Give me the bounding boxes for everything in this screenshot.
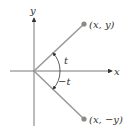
point-lower-label: (x, −y) [89, 114, 123, 125]
angle-label-lower: −t [58, 76, 71, 87]
y-axis-label: y [29, 5, 36, 16]
angle-arc-upper [53, 53, 60, 71]
point-lower [81, 116, 86, 121]
point-upper [81, 21, 86, 26]
angle-label-upper: t [64, 55, 69, 66]
point-upper-label: (x, y) [89, 19, 115, 30]
unit-angle-diagram: x y (x, y) (x, −y) t −t [0, 0, 130, 133]
x-axis-label: x [114, 66, 120, 77]
